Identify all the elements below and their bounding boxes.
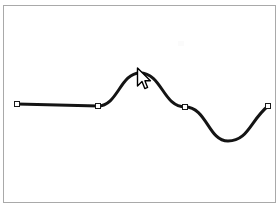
anchor-point-handle[interactable] [265, 103, 271, 109]
anchor-point-handle[interactable] [95, 103, 101, 109]
drawing-canvas[interactable] [3, 5, 276, 203]
screenshot-root [0, 0, 280, 209]
mouse-pointer-icon [136, 67, 152, 92]
faint-artifact-mark [178, 41, 184, 46]
anchor-point-handle[interactable] [182, 104, 188, 110]
anchor-point-handle[interactable] [14, 101, 20, 107]
